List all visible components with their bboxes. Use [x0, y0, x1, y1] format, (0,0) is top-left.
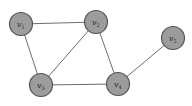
node-v4: v4 — [107, 73, 130, 96]
node-subscript: 4 — [119, 84, 122, 90]
node-subscript: 2 — [97, 22, 100, 28]
node-v3: v3 — [30, 74, 53, 97]
graph-diagram: v1 v2 v3 v4 v5 — [0, 0, 192, 106]
node-subscript: 3 — [42, 85, 45, 91]
node-subscript: 5 — [174, 38, 177, 44]
node-subscript: 1 — [22, 24, 25, 30]
node-v1: v1 — [10, 13, 33, 36]
node-v5: v5 — [162, 27, 185, 50]
node-v2: v2 — [85, 11, 108, 34]
edge-v2-v3 — [41, 22, 96, 85]
